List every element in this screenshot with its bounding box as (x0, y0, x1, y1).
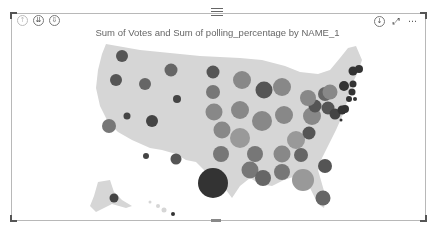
bubble[interactable] (353, 97, 357, 101)
bubble[interactable] (143, 153, 149, 159)
bubble[interactable] (318, 159, 332, 173)
bubble[interactable] (273, 78, 291, 96)
bubble[interactable] (292, 169, 314, 191)
bubble[interactable] (233, 71, 251, 89)
bubble[interactable] (303, 127, 316, 140)
bubble[interactable] (274, 164, 290, 180)
bubble[interactable] (294, 148, 308, 162)
bubble[interactable] (255, 170, 271, 186)
bubble[interactable] (340, 119, 343, 122)
bubble[interactable] (173, 95, 181, 103)
bubble[interactable] (355, 65, 363, 73)
bubble[interactable] (165, 64, 178, 77)
bubble[interactable] (214, 122, 231, 139)
bubble[interactable] (102, 119, 116, 133)
bubble[interactable] (110, 74, 122, 86)
us-bubble-map[interactable] (0, 0, 435, 237)
bubble-texas[interactable] (198, 168, 228, 198)
bubble[interactable] (350, 81, 357, 88)
bubble[interactable] (287, 131, 305, 149)
bubble[interactable] (213, 146, 229, 162)
bubble[interactable] (171, 154, 182, 165)
bubble[interactable] (139, 78, 151, 90)
bubble[interactable] (341, 105, 349, 113)
bubble[interactable] (124, 113, 131, 120)
bubble[interactable] (349, 89, 356, 96)
bubble[interactable] (116, 50, 128, 62)
bubble[interactable] (230, 128, 250, 148)
bubble[interactable] (300, 90, 316, 106)
bubble-hawaii[interactable] (171, 212, 175, 216)
bubble[interactable] (256, 82, 273, 99)
bubble[interactable] (252, 111, 272, 131)
bubble[interactable] (207, 66, 220, 79)
bubble[interactable] (339, 81, 349, 91)
bubble[interactable] (274, 146, 291, 163)
bubble[interactable] (231, 101, 249, 119)
bubble[interactable] (206, 85, 220, 99)
bubble[interactable] (206, 104, 223, 121)
bubble[interactable] (275, 106, 293, 124)
bubble[interactable] (316, 191, 331, 206)
bubble[interactable] (323, 85, 338, 100)
bubble[interactable] (346, 96, 352, 102)
bubble-alaska[interactable] (110, 194, 119, 203)
hawaii-shape (149, 201, 167, 213)
bubble[interactable] (146, 115, 158, 127)
bubble[interactable] (247, 146, 263, 162)
